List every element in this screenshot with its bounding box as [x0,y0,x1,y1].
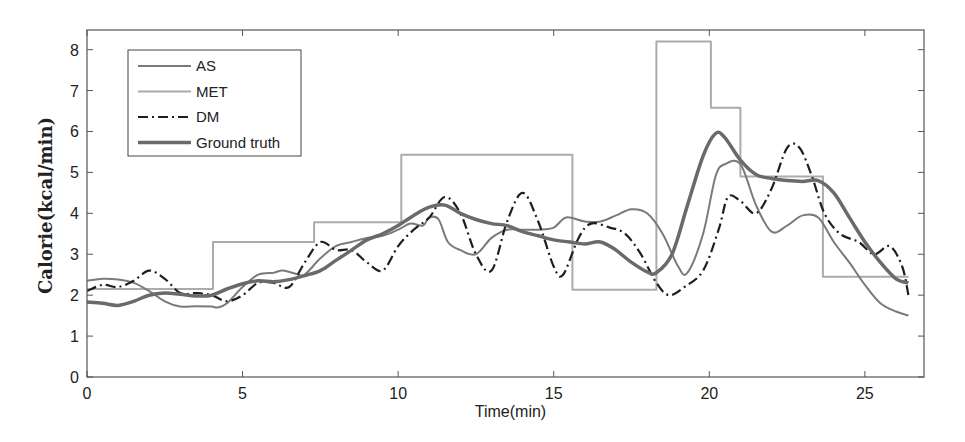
x-tick-label: 15 [545,385,563,402]
series-dm-line [87,143,908,301]
y-tick-label: 4 [70,205,79,222]
y-tick-label: 2 [70,287,79,304]
x-tick-label: 25 [856,385,874,402]
x-tick-label: 5 [238,385,247,402]
y-axis-label: Calorie(kcal/min) [35,117,56,294]
y-tick-label: 8 [70,42,79,59]
series-ground-truth-line [87,132,908,305]
x-tick-label: 10 [389,385,407,402]
y-tick-label: 1 [70,328,79,345]
y-tick-label: 5 [70,164,79,181]
legend: ASMETDMGround truth [128,50,301,156]
legend-label: AS [196,57,216,74]
line-chart: 0510152025 012345678 Time(min) Calorie(k… [0,0,965,442]
y-tick-label: 3 [70,246,79,263]
y-tick-label: 0 [70,369,79,386]
legend-label: MET [196,83,228,100]
x-axis-label: Time(min) [475,403,546,420]
series-as-line [87,161,908,316]
x-tick-label: 0 [83,385,92,402]
legend-label: Ground truth [196,134,280,151]
y-tick-label: 7 [70,83,79,100]
x-tick-label: 20 [700,385,718,402]
y-tick-label: 6 [70,123,79,140]
legend-label: DM [196,108,219,125]
